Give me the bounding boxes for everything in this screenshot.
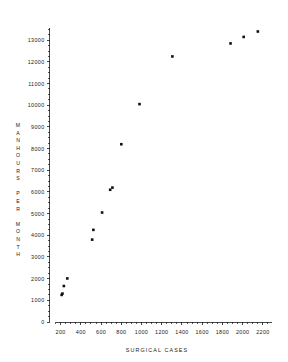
data-point [66, 277, 69, 280]
data-point [257, 30, 260, 33]
x-tick-label: 400 [76, 329, 86, 335]
x-tick-label: 1600 [196, 329, 209, 335]
y-tick-label: 0 [41, 319, 44, 325]
y-axis-title-char: R [16, 206, 20, 212]
y-axis-title-char: M [16, 221, 20, 227]
y-axis-title-char: N [16, 137, 20, 143]
data-point [111, 186, 114, 189]
y-tick-label: 5000 [31, 211, 44, 217]
data-point [120, 143, 123, 146]
x-tick-label: 200 [56, 329, 66, 335]
x-axis-title: SURGICAL CASES [126, 347, 189, 353]
x-axis-tick-labels: 2004006008001000120014001600180020002200 [56, 329, 270, 335]
data-point [92, 229, 95, 232]
data-point [171, 55, 174, 58]
y-axis-title: MANHOURSPERMONTH [16, 122, 21, 257]
x-tick-label: 2000 [236, 329, 249, 335]
data-point [229, 42, 232, 45]
y-axis-title-char: P [16, 190, 20, 196]
data-point [242, 36, 245, 39]
y-axis-title-char: S [16, 175, 20, 181]
y-axis-title-char: M [16, 122, 20, 128]
y-tick-label: 8000 [31, 146, 44, 152]
y-tick-label: 2000 [31, 276, 44, 282]
data-point [91, 238, 94, 241]
data-point [138, 103, 141, 106]
y-axis-title-char: H [16, 251, 20, 257]
y-tick-label: 10000 [28, 102, 45, 108]
y-tick-label: 1000 [31, 297, 44, 303]
data-point [63, 285, 66, 288]
y-tick-label: 4000 [31, 232, 44, 238]
y-axis-title-char: A [16, 130, 20, 136]
y-axis-title-char: N [16, 236, 20, 242]
x-tick-label: 2200 [256, 329, 269, 335]
y-tick-label: 3000 [31, 254, 44, 260]
y-tick-label: 11000 [28, 81, 44, 87]
data-point [109, 188, 112, 191]
data-point [61, 292, 64, 295]
x-tick-label: 1400 [175, 329, 188, 335]
y-tick-label: 12000 [28, 59, 45, 65]
y-axis-title-char: E [16, 198, 20, 204]
data-point [101, 211, 104, 214]
y-axis [47, 28, 50, 322]
x-tick-label: 1000 [135, 329, 148, 335]
y-axis-title-char: R [16, 168, 20, 174]
scatter-plot-figure: 0100020003000400050006000700080009000100… [0, 0, 288, 362]
data-point-series [60, 30, 259, 296]
y-tick-label: 13000 [28, 37, 45, 43]
y-axis-title-char: U [16, 160, 20, 166]
x-tick-label: 600 [96, 329, 106, 335]
y-axis-tick-labels: 0100020003000400050006000700080009000100… [28, 37, 45, 325]
y-tick-label: 7000 [31, 167, 44, 173]
y-axis-title-char: H [16, 145, 20, 151]
x-axis [56, 322, 272, 325]
x-tick-label: 1800 [216, 329, 229, 335]
y-tick-label: 6000 [31, 189, 44, 195]
y-axis-title-char: O [16, 228, 20, 234]
y-axis-title-char: O [16, 152, 20, 158]
y-tick-label: 9000 [31, 124, 44, 130]
x-tick-label: 1200 [155, 329, 168, 335]
y-axis-title-char: T [16, 244, 20, 250]
x-tick-label: 800 [116, 329, 126, 335]
plot-canvas: 0100020003000400050006000700080009000100… [0, 0, 288, 362]
